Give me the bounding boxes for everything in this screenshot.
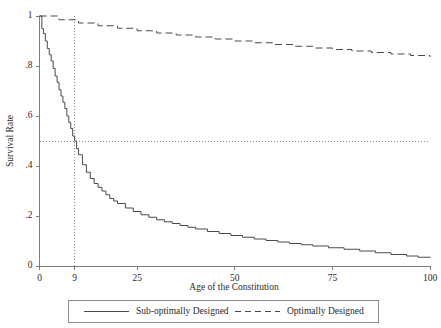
x-tick-label-5: 100 (423, 273, 438, 283)
x-tick-label-0: 0 (37, 273, 42, 283)
x-tick-label-4: 75 (328, 273, 338, 283)
y-tick-label-4: .8 (25, 60, 32, 70)
legend-label-2: Optimally Designed (287, 306, 364, 316)
y-tick-label-3: .6 (25, 110, 32, 120)
x-axis-ticks: 09255075100 (37, 266, 437, 283)
x-tick-label-1: 9 (72, 273, 77, 283)
reference-lines (40, 16, 431, 266)
x-tick-label-2: 25 (132, 273, 142, 283)
y-tick-label-5: 1 (28, 10, 33, 20)
y-tick-label-0: 0 (28, 260, 33, 270)
survival-rate-chart: 0.2.4.6.81 09255075100 Survival Rate Age… (0, 0, 441, 328)
y-tick-label-2: .4 (25, 160, 32, 170)
legend-label-1: Sub-optimally Designed (136, 306, 229, 316)
data-series-group (40, 16, 431, 258)
legend: Sub-optimally DesignedOptimally Designed (69, 301, 379, 323)
y-tick-label-1: .2 (25, 210, 32, 220)
y-axis-title: Survival Rate (5, 115, 15, 167)
y-axis-ticks: 0.2.4.6.81 (25, 10, 39, 270)
x-axis-title: Age of the Constitution (189, 282, 279, 292)
series-line-optimally-designed (40, 16, 431, 57)
chart-canvas: 0.2.4.6.81 09255075100 Survival Rate Age… (0, 0, 441, 328)
